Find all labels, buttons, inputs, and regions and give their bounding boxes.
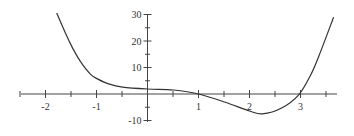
y-tick-label: 30 [132, 9, 142, 20]
axes [21, 15, 337, 122]
x-tick-label: -1 [92, 101, 100, 112]
function-plot: -2-1123302010-10 [0, 0, 354, 136]
tick-labels: -2-1123302010-10 [41, 9, 303, 126]
y-tick-label: 10 [132, 62, 142, 73]
y-tick-label: -10 [128, 115, 141, 126]
function-curve [57, 13, 334, 114]
x-tick-label: -2 [41, 101, 49, 112]
x-tick-label: 3 [298, 101, 303, 112]
y-tick-label: 20 [132, 36, 142, 47]
x-tick-label: 1 [196, 101, 201, 112]
ticks [20, 15, 326, 121]
